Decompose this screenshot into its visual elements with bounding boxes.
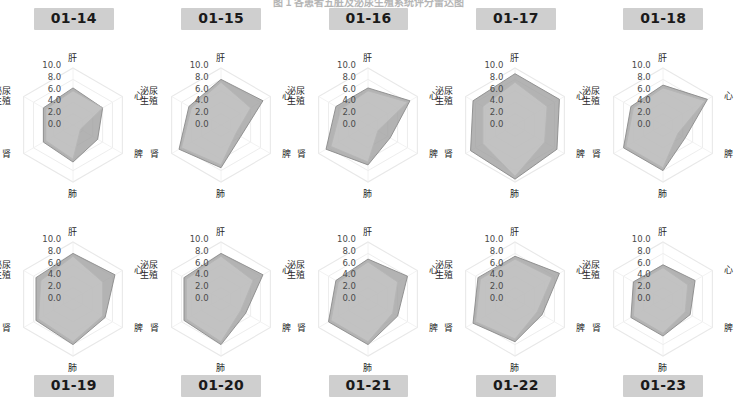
radar-axis-label-fei: 肺: [68, 363, 77, 374]
radar-chart: 10.08.06.04.02.00.0肝心脾肺肾泌尿生殖: [148, 33, 295, 201]
radar-axis-label-miniao-line2: 生殖: [0, 270, 11, 280]
radar-axis-label-miniao: 泌尿生殖: [140, 86, 159, 106]
radar-axis-label-fei: 肺: [363, 363, 372, 374]
radar-axis-label-miniao: 泌尿生殖: [287, 260, 306, 280]
radar-panel: 10.08.06.04.02.00.0肝心脾肺肾泌尿生殖01-20: [147, 207, 294, 407]
radar-axis-label-shen: 肾: [2, 149, 11, 160]
panel-label-badge[interactable]: 01-22: [476, 375, 556, 397]
panel-label-badge[interactable]: 01-18: [623, 8, 703, 30]
radar-axis-label-fei: 肺: [658, 363, 667, 374]
radar-axis-label-miniao: 泌尿生殖: [582, 260, 601, 280]
radar-axis-label-gan: 肝: [658, 53, 667, 64]
radar-axis-label-miniao-line2: 生殖: [140, 270, 159, 280]
radar-panel: 01-1610.08.06.04.02.00.0肝心脾肺肾泌尿生殖: [295, 8, 442, 207]
panel-label-wrap: 01-16: [329, 8, 409, 33]
radar-axis-label-pi: 脾: [576, 323, 585, 334]
panel-label-badge[interactable]: 01-14: [34, 8, 114, 30]
panel-label-badge[interactable]: 01-17: [476, 8, 556, 30]
radar-axis-label-fei: 肺: [510, 189, 519, 200]
radar-axis-label-miniao: 泌尿生殖: [434, 86, 453, 106]
panel-label-badge[interactable]: 01-19: [34, 375, 114, 397]
radar-axis-label-miniao-line2: 生殖: [287, 270, 306, 280]
radar-axis-label-miniao-line2: 生殖: [0, 96, 11, 106]
radar-axis-label-fei: 肺: [363, 189, 372, 200]
radar-axis-label-gan: 肝: [658, 227, 667, 238]
radar-axis-label-fei: 肺: [68, 189, 77, 200]
radar-axis-label-miniao-line1: 泌尿: [434, 260, 453, 270]
radar-axis-label-miniao-line2: 生殖: [582, 96, 601, 106]
radar-axis-label-shen: 肾: [444, 323, 453, 334]
radar-chart: 10.08.06.04.02.00.0肝心脾肺肾泌尿生殖: [442, 33, 589, 201]
radar-axis-label-miniao-line1: 泌尿: [582, 86, 601, 96]
radar-axis-label-gan: 肝: [510, 53, 519, 64]
radar-panel: 01-1810.08.06.04.02.00.0肝心脾肺肾泌尿生殖: [590, 8, 737, 207]
radar-axis-label-miniao: 泌尿生殖: [287, 86, 306, 106]
radar-axis-label-gan: 肝: [216, 53, 225, 64]
radar-axis-label-miniao-line2: 生殖: [434, 270, 453, 280]
radar-chart: 10.08.06.04.02.00.0肝心脾肺肾泌尿生殖: [295, 207, 442, 375]
radar-axis-label-shen: 肾: [592, 323, 601, 334]
radar-axis-label-fei: 肺: [510, 363, 519, 374]
radar-axis-label-fei: 肺: [216, 363, 225, 374]
radar-axis-label-miniao: 泌尿生殖: [0, 86, 11, 106]
panel-label-wrap: 01-23: [623, 375, 703, 400]
radar-axis-label-miniao-line2: 生殖: [582, 270, 601, 280]
radar-chart: 10.08.06.04.02.00.0肝心脾肺肾泌尿生殖: [442, 207, 589, 375]
radar-panel: 10.08.06.04.02.00.0肝心脾肺肾泌尿生殖01-22: [442, 207, 589, 407]
radar-panel: 10.08.06.04.02.00.0肝心脾肺肾泌尿生殖01-23: [590, 207, 737, 407]
radar-axis-label-xin: 心: [724, 265, 733, 276]
radar-axis-label-gan: 肝: [216, 227, 225, 238]
radar-axis-label-pi: 脾: [724, 149, 733, 160]
radar-panel: 10.08.06.04.02.00.0肝心脾肺肾泌尿生殖01-19: [0, 207, 147, 407]
radar-chart-grid: 01-1410.08.06.04.02.00.0肝心脾肺肾泌尿生殖01-1510…: [0, 8, 737, 413]
radar-axis-label-shen: 肾: [592, 149, 601, 160]
panel-label-badge[interactable]: 01-15: [181, 8, 261, 30]
radar-axis-label-miniao-line1: 泌尿: [434, 86, 453, 96]
radar-axis-label-miniao-line2: 生殖: [434, 96, 453, 106]
panel-label-wrap: 01-20: [181, 375, 261, 400]
panel-label-wrap: 01-19: [34, 375, 114, 400]
panel-label-wrap: 01-22: [476, 375, 556, 400]
radar-axis-label-pi: 脾: [282, 323, 291, 334]
radar-axis-label-miniao: 泌尿生殖: [582, 86, 601, 106]
radar-chart: 10.08.06.04.02.00.0肝心脾肺肾泌尿生殖: [590, 207, 737, 375]
radar-axis-label-gan: 肝: [363, 227, 372, 238]
radar-axis-label-xin: 心: [724, 91, 733, 102]
radar-axis-label-miniao-line1: 泌尿: [140, 260, 159, 270]
radar-panel: 01-1410.08.06.04.02.00.0肝心脾肺肾泌尿生殖: [0, 8, 147, 207]
radar-panel: 01-1710.08.06.04.02.00.0肝心脾肺肾泌尿生殖: [442, 8, 589, 207]
radar-chart: 10.08.06.04.02.00.0肝心脾肺肾泌尿生殖: [0, 207, 147, 375]
radar-axis-label-miniao-line1: 泌尿: [287, 86, 306, 96]
panel-label-wrap: 01-17: [476, 8, 556, 33]
radar-axis-label-miniao-line1: 泌尿: [140, 86, 159, 96]
radar-axis-label-gan: 肝: [68, 53, 77, 64]
radar-axis-label-miniao: 泌尿生殖: [0, 260, 11, 280]
panel-label-badge[interactable]: 01-21: [329, 375, 409, 397]
radar-axis-label-pi: 脾: [724, 323, 733, 334]
radar-chart: 10.08.06.04.02.00.0肝心脾肺肾泌尿生殖: [148, 207, 295, 375]
radar-axis-label-pi: 脾: [429, 323, 438, 334]
radar-chart: 10.08.06.04.02.00.0肝心脾肺肾泌尿生殖: [295, 33, 442, 201]
radar-axis-label-gan: 肝: [510, 227, 519, 238]
radar-panel: 10.08.06.04.02.00.0肝心脾肺肾泌尿生殖01-21: [295, 207, 442, 407]
radar-axis-label-miniao-line1: 泌尿: [287, 260, 306, 270]
radar-axis-label-miniao-line1: 泌尿: [582, 260, 601, 270]
panel-label-wrap: 01-15: [181, 8, 261, 33]
panel-label-wrap: 01-21: [329, 375, 409, 400]
panel-label-wrap: 01-18: [623, 8, 703, 33]
panel-label-wrap: 01-14: [34, 8, 114, 33]
radar-axis-label-miniao: 泌尿生殖: [434, 260, 453, 280]
radar-axis-label-shen: 肾: [444, 149, 453, 160]
radar-axis-label-miniao: 泌尿生殖: [140, 260, 159, 280]
radar-axis-label-pi: 脾: [134, 323, 143, 334]
radar-axis-label-pi: 脾: [134, 149, 143, 160]
radar-axis-label-shen: 肾: [150, 149, 159, 160]
radar-axis-label-gan: 肝: [68, 227, 77, 238]
radar-axis-label-shen: 肾: [2, 323, 11, 334]
panel-label-badge[interactable]: 01-16: [329, 8, 409, 30]
panel-label-badge[interactable]: 01-23: [623, 375, 703, 397]
radar-axis-label-pi: 脾: [576, 149, 585, 160]
panel-label-badge[interactable]: 01-20: [181, 375, 261, 397]
radar-chart: 10.08.06.04.02.00.0肝心脾肺肾泌尿生殖: [0, 33, 147, 201]
radar-panel: 01-1510.08.06.04.02.00.0肝心脾肺肾泌尿生殖: [147, 8, 294, 207]
